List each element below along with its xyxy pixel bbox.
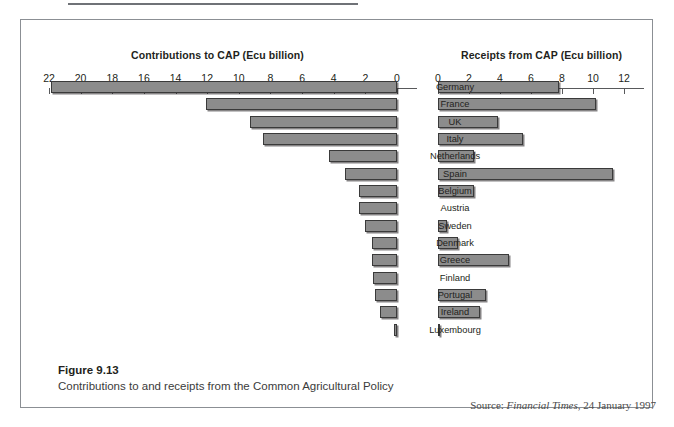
chart-row: Belgium bbox=[21, 183, 652, 200]
figure-container: Contributions to CAP (Ecu billion) Recei… bbox=[20, 19, 653, 408]
category-label: UK bbox=[419, 115, 491, 129]
chart-row: UK bbox=[21, 114, 652, 131]
category-label: Germany bbox=[419, 80, 491, 94]
source-date: , 24 January 1997 bbox=[578, 399, 656, 411]
category-label: Austria bbox=[419, 201, 491, 215]
contribution-bar bbox=[359, 185, 397, 197]
category-label: Ireland bbox=[419, 305, 491, 319]
chart-row: Austria bbox=[21, 200, 652, 217]
source-publication: Financial Times bbox=[507, 399, 578, 411]
category-label: Sweden bbox=[419, 219, 491, 233]
category-label: Greece bbox=[419, 253, 491, 267]
category-label: Finland bbox=[419, 271, 491, 285]
right-axis-title: Receipts from CAP (Ecu billion) bbox=[461, 49, 622, 61]
contribution-bar bbox=[372, 237, 397, 249]
chart-row: Germany bbox=[21, 79, 652, 96]
chart-row: Portugal bbox=[21, 287, 652, 304]
category-label: France bbox=[419, 97, 491, 111]
figure-number: Figure 9.13 bbox=[58, 362, 478, 378]
chart-row: Sweden bbox=[21, 218, 652, 235]
contribution-bar bbox=[250, 116, 397, 128]
category-label: Italy bbox=[419, 132, 491, 146]
left-axis-title: Contributions to CAP (Ecu billion) bbox=[131, 49, 304, 61]
source-prefix: Source: bbox=[470, 399, 504, 411]
chart-row: Finland bbox=[21, 270, 652, 287]
contribution-bar bbox=[365, 220, 397, 232]
contribution-bar bbox=[394, 324, 397, 336]
figure-caption: Figure 9.13 Contributions to and receipt… bbox=[58, 362, 478, 395]
chart-row: France bbox=[21, 96, 652, 113]
category-label: Spain bbox=[419, 167, 491, 181]
chart-row: Ireland bbox=[21, 304, 652, 321]
chart-row: Denmark bbox=[21, 235, 652, 252]
contribution-bar bbox=[372, 254, 397, 266]
category-label: Denmark bbox=[419, 236, 491, 250]
contribution-bar bbox=[206, 98, 397, 110]
chart-row: Luxembourg bbox=[21, 322, 652, 339]
category-label: Luxembourg bbox=[419, 323, 491, 337]
figure-source: Source: Financial Times, 24 January 1997 bbox=[461, 399, 656, 411]
chart-row: Greece bbox=[21, 252, 652, 269]
contribution-bar bbox=[373, 272, 397, 284]
category-label: Portugal bbox=[419, 288, 491, 302]
category-label: Netherlands bbox=[419, 149, 491, 163]
contribution-bar bbox=[359, 202, 397, 214]
figure-title: Contributions to and receipts from the C… bbox=[58, 378, 478, 395]
chart-row: Spain bbox=[21, 166, 652, 183]
contribution-bar bbox=[345, 168, 397, 180]
category-label: Belgium bbox=[419, 184, 491, 198]
chart-row: Netherlands bbox=[21, 148, 652, 165]
contribution-bar bbox=[329, 150, 397, 162]
chart-row: Italy bbox=[21, 131, 652, 148]
contribution-bar bbox=[380, 306, 397, 318]
contribution-bar bbox=[51, 81, 397, 93]
contribution-bar bbox=[375, 289, 397, 301]
contribution-bar bbox=[263, 133, 397, 145]
page-top-rule bbox=[68, 3, 358, 5]
